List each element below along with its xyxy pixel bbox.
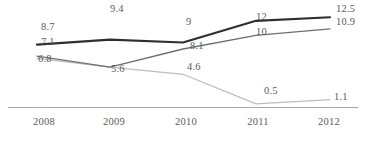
label-dark-2012: 12.5	[336, 4, 355, 15]
label-light-2012: 1.1	[334, 92, 348, 103]
series-medium-line	[37, 29, 330, 67]
x-axis-tick-2011: 2011	[247, 117, 268, 128]
label-medium-2012: 10.9	[336, 17, 355, 28]
series-light-line	[37, 58, 330, 104]
label-dark-2011: 12	[256, 12, 267, 23]
line-chart: 8.79.491212.57.18.11010.96.85.64.60.51.1…	[0, 0, 366, 141]
label-light-2011: 0.5	[264, 86, 278, 97]
label-medium-2010: 8.1	[190, 41, 204, 52]
label-dark-2009: 9.4	[110, 4, 124, 15]
x-axis-tick-2012: 2012	[318, 117, 340, 128]
label-shared-2009: 5.6	[111, 64, 125, 75]
label-medium-2008: 7.1	[41, 37, 55, 48]
series-dark-line	[37, 17, 330, 44]
label-medium-2011: 10	[256, 27, 267, 38]
series-medium-path-group	[37, 29, 330, 67]
x-axis-tick-2008: 2008	[33, 117, 55, 128]
series-dark-path-group	[37, 17, 330, 44]
label-light-2010: 4.6	[187, 62, 201, 73]
x-axis-tick-2010: 2010	[175, 117, 197, 128]
label-dark-2008: 8.7	[41, 22, 55, 33]
label-dark-2010: 9	[186, 17, 191, 28]
x-axis-tick-2009: 2009	[103, 117, 125, 128]
series-light-path-group	[37, 58, 330, 104]
label-light-2008: 6.8	[38, 54, 52, 65]
